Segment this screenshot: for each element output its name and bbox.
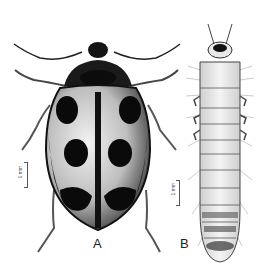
scale-bar-b (176, 180, 180, 206)
scale-label-a: 1 mm (17, 166, 23, 179)
scale-label-b: 1 mm (170, 183, 176, 196)
figure-plate: 1 mm 1 mm A B (0, 0, 276, 278)
beetle-illustration (0, 0, 276, 278)
scale-bar-a (24, 162, 28, 188)
beetle-panel-a (14, 42, 180, 252)
panel-label-a: A (93, 236, 102, 251)
panel-label-b: B (180, 236, 189, 251)
larva-panel-b (186, 24, 254, 262)
